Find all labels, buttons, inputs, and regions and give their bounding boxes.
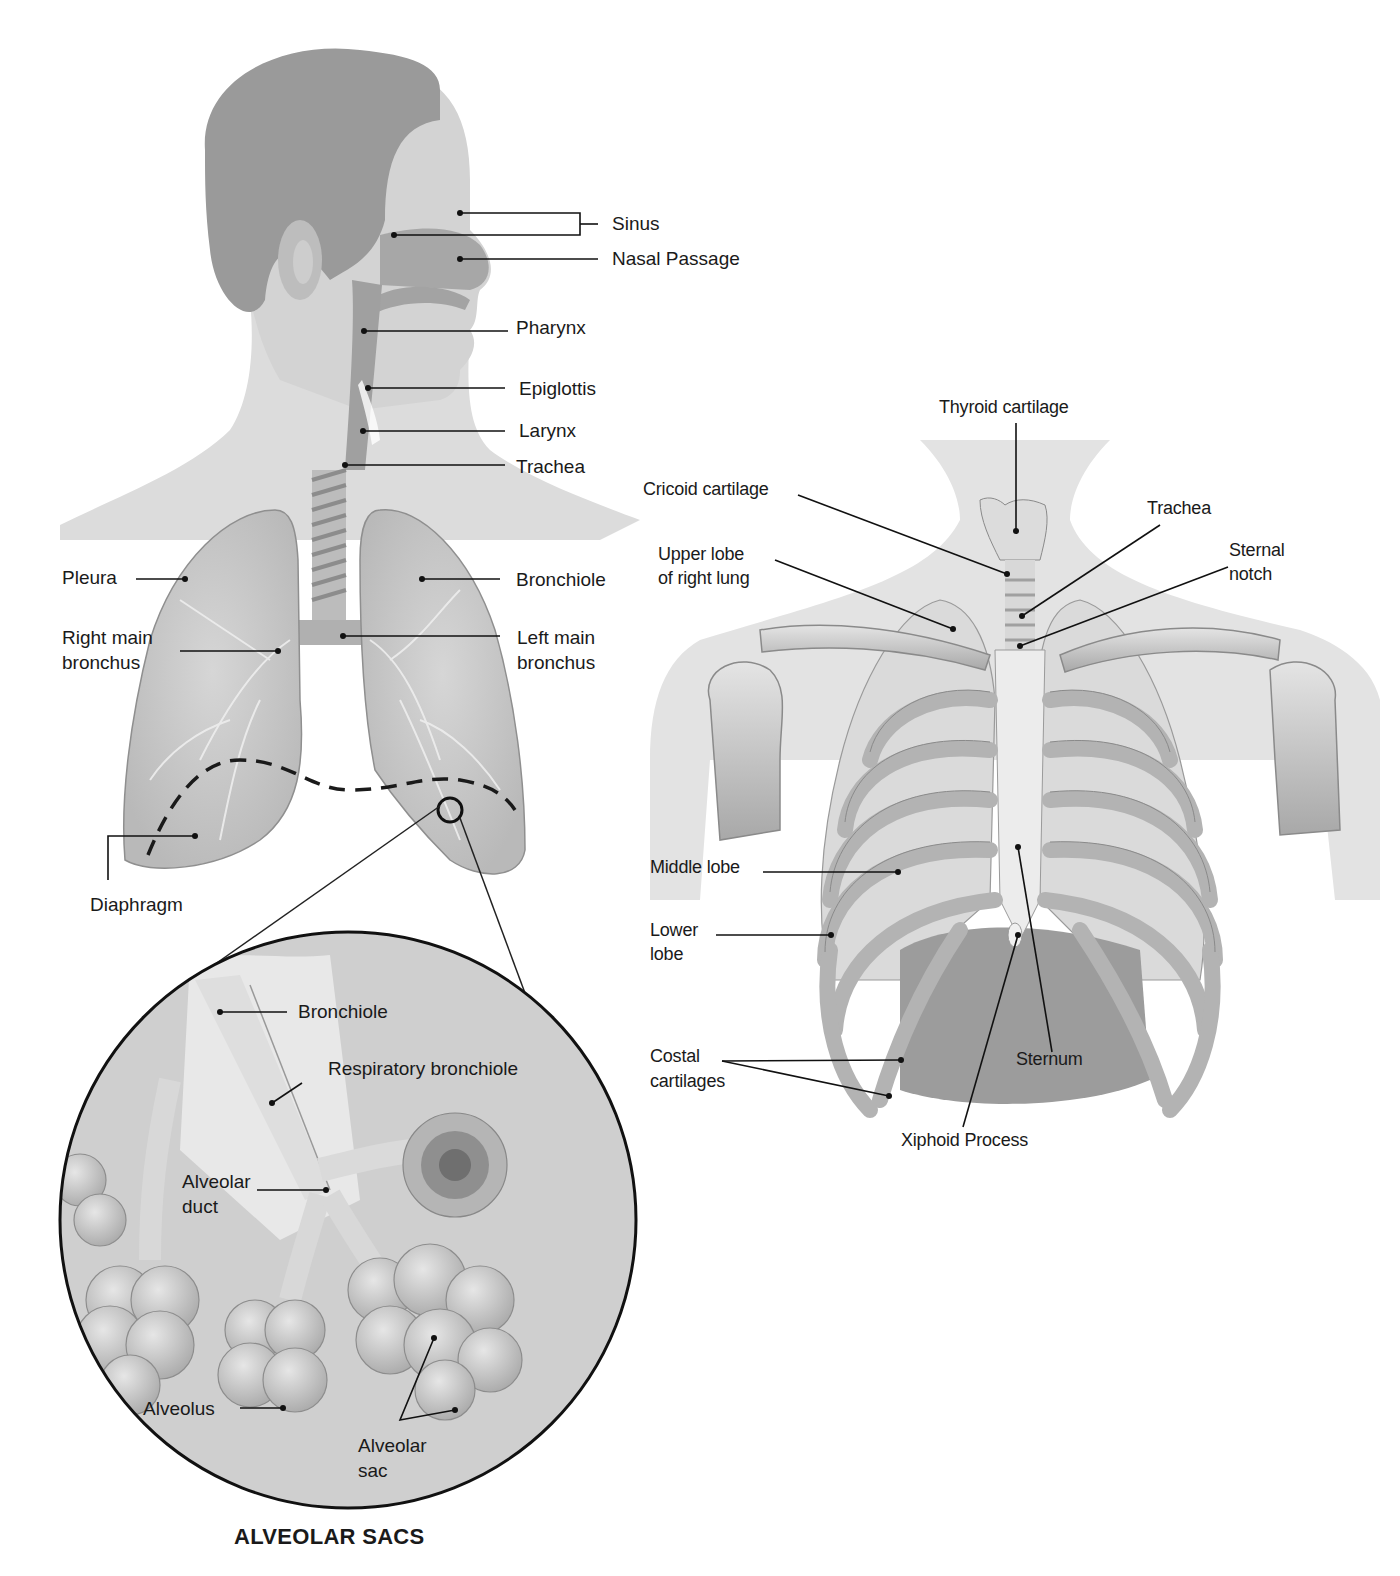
label-left-main-bronchus-line1: Left main [517,626,595,650]
label-pharynx: Pharynx [516,316,586,340]
label-pleura: Pleura [62,566,117,590]
label-alveolar-sac-line1: Alveolar [358,1434,427,1458]
label-thyroid-cartilage: Thyroid cartilage [939,395,1069,419]
label-costal-cartilages-line2: cartilages [650,1069,725,1093]
label-diaphragm: Diaphragm [90,893,183,917]
cut-sac [403,1113,507,1217]
label-costal-cartilages-line1: Costal [650,1044,700,1068]
label-left-main-bronchus-line2: bronchus [517,651,595,675]
label-lower-lobe-line2: lobe [650,942,683,966]
label-middle-lobe: Middle lobe [650,855,740,879]
anatomy-artwork [0,0,1400,1576]
label-cricoid-cartilage: Cricoid cartilage [643,477,769,501]
label-trachea: Trachea [516,455,585,479]
inset-title: ALVEOLAR SACS [234,1524,425,1550]
label-sinus: Sinus [612,212,660,236]
label-upper-lobe-line1: Upper lobe [658,542,744,566]
label-alveolar-duct-line2: duct [182,1195,218,1219]
label-right-main-bronchus-line2: bronchus [62,651,140,675]
label-alveolar-duct-line1: Alveolar [182,1170,251,1194]
label-epiglottis: Epiglottis [519,377,596,401]
label-larynx: Larynx [519,419,576,443]
label-nasal-passage: Nasal Passage [612,247,740,271]
label-sternum: Sternum [1016,1047,1083,1071]
label-xiphoid-process: Xiphoid Process [901,1128,1028,1152]
sternum [995,650,1045,940]
label-alveolar-sac-line2: sac [358,1459,388,1483]
label-sternal-notch-line2: notch [1229,562,1272,586]
label-lower-lobe-line1: Lower [650,918,698,942]
label-upper-lobe-line2: of right lung [658,566,749,590]
label-inset-bronchiole: Bronchiole [298,1000,388,1024]
label-respiratory-bronchiole: Respiratory bronchiole [328,1057,518,1081]
label-alveolus: Alveolus [143,1397,215,1421]
label-bronchiole: Bronchiole [516,568,606,592]
label-sternal-notch-line1: Sternal [1229,538,1285,562]
label-right-main-bronchus-line1: Right main [62,626,153,650]
label-trachea-right: Trachea [1147,496,1211,520]
